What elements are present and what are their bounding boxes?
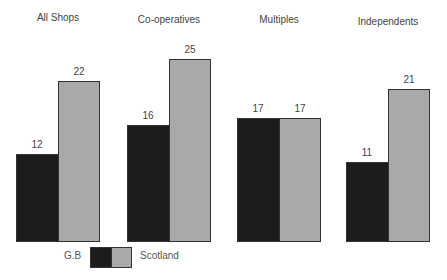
value-label: 16 [142, 110, 153, 121]
value-label: 21 [403, 74, 414, 85]
bar-scotland [58, 81, 100, 242]
bar-gb [127, 125, 170, 242]
value-label: 12 [31, 139, 42, 150]
bar-gb [16, 154, 59, 242]
bar-scotland [169, 59, 211, 242]
value-label: 17 [252, 103, 263, 114]
bar-scotland [388, 89, 430, 242]
legend-swatch-scotland [111, 247, 132, 268]
legend-label-scotland: Scotland [140, 250, 179, 261]
legend-label-gb: G.B [64, 250, 81, 261]
value-label: 22 [73, 66, 84, 77]
value-label: 25 [184, 44, 195, 55]
bar-scotland [279, 118, 321, 242]
value-label: 17 [294, 103, 305, 114]
legend-swatch-gb [90, 247, 112, 268]
category-label: Multiples [259, 14, 298, 25]
bar-gb [237, 118, 280, 242]
category-label: Independents [358, 16, 419, 27]
category-label: All Shops [37, 12, 79, 23]
bar-gb [346, 162, 389, 242]
category-label: Co-operatives [138, 14, 200, 25]
value-label: 11 [362, 147, 372, 158]
